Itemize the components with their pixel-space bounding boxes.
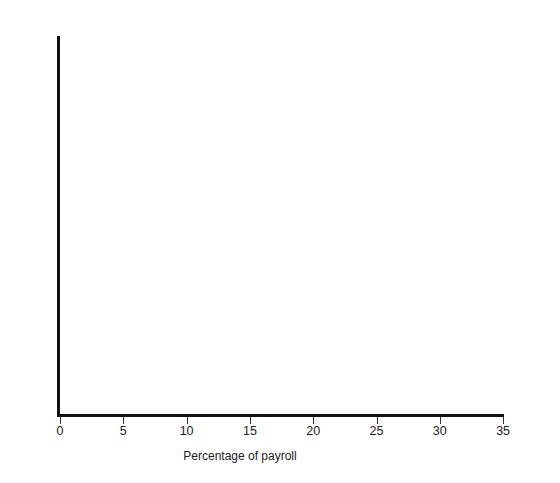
x-tick (440, 417, 441, 424)
stacked-bar-chart: 05101520253035 Percentage of payroll (0, 0, 560, 483)
x-tick (250, 417, 251, 424)
x-tick (503, 417, 504, 424)
x-tick-label: 5 (103, 424, 143, 438)
x-tick-label: 35 (483, 424, 523, 438)
y-axis-line (57, 36, 60, 416)
x-tick-label: 0 (40, 424, 80, 438)
x-tick-label: 30 (420, 424, 460, 438)
x-tick (187, 417, 188, 424)
x-tick (60, 417, 61, 424)
x-tick-label: 25 (357, 424, 397, 438)
x-tick (123, 417, 124, 424)
x-tick (377, 417, 378, 424)
x-tick (313, 417, 314, 424)
x-tick-label: 10 (167, 424, 207, 438)
x-tick-label: 20 (293, 424, 333, 438)
x-axis-title: Percentage of payroll (0, 449, 520, 463)
x-tick-label: 15 (230, 424, 270, 438)
